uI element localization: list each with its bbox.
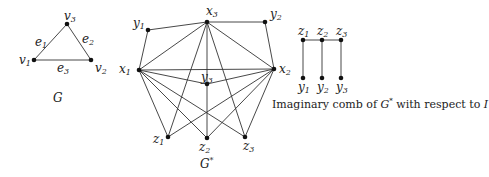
diagram-canvas: v3 v1 v2 e1 e2 e3 G y1 x3 y2 x1 x2 y3 z1…	[0, 0, 489, 177]
node-z2	[205, 136, 210, 141]
label-y1: y1	[132, 16, 145, 31]
label-comb-z3: z3	[335, 24, 347, 39]
node-x2	[272, 67, 277, 72]
edge-x1-z2	[139, 70, 207, 138]
edge-x3-x2	[207, 22, 274, 69]
edge-x1-y3	[139, 70, 207, 84]
node-v2	[89, 58, 94, 63]
edge-y1-x3	[148, 22, 207, 30]
caption-g-star: G*	[200, 156, 214, 171]
node-v1	[32, 58, 37, 63]
node-y1	[146, 28, 151, 33]
edge-y3-x2	[207, 69, 274, 84]
node-y2	[263, 20, 268, 25]
caption-g: G	[53, 91, 63, 105]
label-z1: z1	[152, 132, 164, 147]
comb-edges	[303, 40, 341, 78]
label-v3: v3	[64, 9, 76, 24]
label-y3: y3	[200, 70, 213, 85]
label-x3: x3	[206, 4, 218, 19]
graph-g: v3 v1 v2 e1 e2 e3 G	[19, 9, 107, 105]
graph-comb: z1 z2 z3 y1 y2 y3 Imaginary comb of G* w…	[272, 24, 489, 111]
graph-g-star: y1 x3 y2 x1 x2 y3 z1 z2 z3 G*	[119, 4, 291, 171]
node-x3	[205, 20, 210, 25]
label-v2: v2	[95, 61, 107, 76]
label-z3: z3	[242, 139, 254, 154]
label-e2: e2	[82, 32, 94, 47]
label-e1: e1	[35, 35, 47, 50]
edge-x1-z3	[139, 70, 245, 137]
label-comb-y1: y1	[297, 80, 310, 95]
node-z1	[166, 135, 171, 140]
caption-comb: Imaginary comb of G* with respect to I	[272, 97, 489, 111]
edge-y2-x2	[265, 22, 274, 69]
label-comb-y2: y2	[316, 80, 329, 95]
label-x2: x2	[279, 62, 291, 77]
edge-x2-z2	[207, 69, 274, 138]
label-comb-z2: z2	[316, 24, 328, 39]
edge-x1-y1	[139, 30, 148, 70]
edge-x1-z1	[139, 70, 168, 137]
label-z2: z2	[198, 140, 210, 155]
label-comb-y3: y3	[335, 80, 348, 95]
label-comb-z1: z1	[297, 24, 309, 39]
label-e3: e3	[57, 61, 69, 76]
label-x1: x1	[119, 62, 131, 77]
label-y2: y2	[269, 7, 282, 22]
node-x1	[137, 68, 142, 73]
label-v1: v1	[19, 53, 31, 68]
edge-x2-z3	[245, 69, 274, 137]
